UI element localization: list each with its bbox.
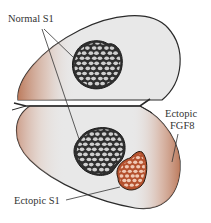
label-ectopic-s1: Ectopic S1 — [14, 195, 60, 206]
barrel-cell — [98, 56, 103, 60]
ectopic-barrel-cell — [139, 160, 143, 163]
ectopic-barrel-cell — [136, 156, 140, 159]
barrel-cell — [92, 148, 97, 152]
barrel-cell — [101, 62, 106, 66]
barrel-cell — [102, 142, 107, 146]
barrel-cell — [104, 67, 109, 71]
label-ectopic-fgf8-line2: FGF8 — [170, 120, 195, 131]
barrel-cell — [105, 137, 110, 141]
barrel-cell — [82, 72, 87, 76]
barrel-cell — [90, 153, 95, 157]
barrel-cell — [86, 148, 91, 152]
barrel-cell — [114, 153, 119, 157]
ectopic-barrel-cell — [125, 165, 129, 168]
barrel-cell — [89, 132, 94, 136]
barrel-cell — [79, 67, 84, 71]
barrel-cell — [85, 67, 90, 71]
barrel-cell — [104, 56, 109, 60]
barrel-cell — [110, 56, 115, 60]
barrel-cell — [99, 158, 104, 162]
ectopic-barrel-cell — [133, 160, 137, 163]
barrel-cell — [86, 77, 91, 81]
barrel-cell — [85, 46, 90, 50]
barrel-cell — [83, 142, 88, 146]
barrel-cell — [111, 137, 116, 141]
barrel-cell — [93, 137, 98, 141]
ectopic-barrel-cell — [133, 170, 137, 173]
ectopic-barrel-cell — [125, 174, 129, 177]
barrel-cell — [89, 72, 94, 76]
barrel-cell — [104, 148, 109, 152]
label-ectopic-fgf8-line1: Ectopic — [165, 108, 197, 119]
ectopic-barrel-cell — [131, 174, 135, 177]
ectopic-barrel-cell — [119, 174, 123, 177]
barrel-cell — [82, 62, 87, 66]
label-normal-s1: Normal S1 — [8, 13, 54, 24]
barrel-cell — [77, 153, 82, 157]
barrel-cell — [83, 153, 88, 157]
barrel-cell — [98, 137, 103, 141]
barrel-cell — [99, 168, 104, 172]
barrel-cell — [104, 158, 109, 162]
barrel-cell — [108, 153, 113, 157]
barrel-cell — [96, 163, 101, 167]
barrel-cell — [95, 153, 100, 157]
barrel-cell — [98, 77, 103, 81]
barrel-cell — [111, 158, 116, 162]
barrel-cell — [92, 158, 97, 162]
barrel-cell — [89, 163, 94, 167]
barrel-cell — [101, 51, 106, 55]
ectopic-barrel-cell — [128, 170, 132, 173]
barrel-cell — [99, 148, 104, 152]
barrel-cell — [87, 158, 92, 162]
barrel-cell — [108, 132, 113, 136]
barrel-cell — [113, 51, 118, 55]
ectopic-barrel-cell — [130, 183, 134, 186]
barrel-cell — [113, 62, 118, 66]
barrel-cell — [91, 67, 96, 71]
barrel-cell — [110, 67, 115, 71]
barrel-cell — [100, 82, 105, 86]
barrel-cell — [82, 51, 87, 55]
barrel-cell — [92, 56, 97, 60]
diagram-canvas: Normal S1 Ectopic FGF8 Ectopic S1 — [0, 0, 211, 223]
barrel-cell — [102, 153, 107, 157]
barrel-cell — [77, 72, 82, 76]
barrel-cell — [108, 163, 113, 167]
barrel-cell — [95, 142, 100, 146]
barrel-cell — [89, 62, 94, 66]
ectopic-barrel-cell — [130, 165, 134, 168]
barrel-cell — [90, 142, 95, 146]
barrel-cell — [103, 77, 108, 81]
barrel-cell — [95, 82, 100, 86]
barrel-cell — [92, 168, 97, 172]
ectopic-barrel-cell — [139, 170, 143, 173]
barrel-cell — [94, 62, 99, 66]
ectopic-barrel-cell — [122, 179, 126, 182]
ectopic-barrel-cell — [127, 179, 131, 182]
barrel-cell — [104, 46, 109, 50]
barrel-cell — [80, 56, 85, 60]
ectopic-barrel-cell — [132, 179, 136, 182]
barrel-cell — [94, 72, 99, 76]
barrel-cell — [83, 163, 88, 167]
barrel-cell — [76, 62, 81, 66]
barrel-cell — [102, 132, 107, 136]
barrel-cell — [88, 51, 93, 55]
ectopic-barrel-cell — [135, 174, 139, 177]
barrel-cell — [107, 142, 112, 146]
barrel-cell — [85, 56, 90, 60]
barrel-cell — [88, 82, 93, 86]
barrel-cell — [86, 137, 91, 141]
barrel-cell — [101, 72, 106, 76]
ectopic-barrel-cell — [136, 165, 140, 168]
barrel-cell — [92, 46, 97, 50]
barrel-cell — [98, 67, 103, 71]
barrel-cell — [114, 142, 119, 146]
barrel-cell — [80, 158, 85, 162]
barrel-cell — [94, 51, 99, 55]
barrel-cell — [80, 148, 85, 152]
barrel-cell — [101, 163, 106, 167]
ectopic-barrel-cell — [122, 170, 126, 173]
barrel-cell — [108, 51, 113, 55]
